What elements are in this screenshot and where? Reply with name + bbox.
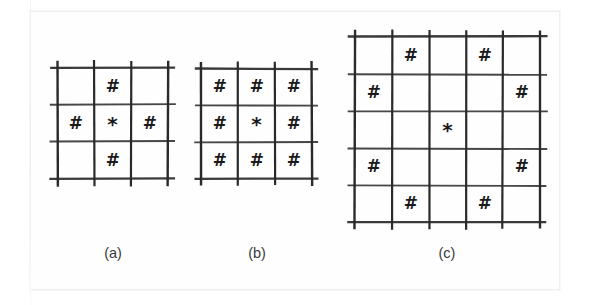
empty-cell [355, 185, 392, 222]
empty-cell [57, 68, 94, 105]
empty-cell [131, 142, 168, 179]
neighbor-pixel-marker: # [275, 105, 312, 142]
empty-cell [392, 148, 429, 185]
neighbor-pixel-marker: # [57, 105, 94, 142]
panel-caption-b: (b) [217, 245, 297, 261]
empty-cell [429, 74, 466, 111]
empty-cell [466, 148, 503, 185]
neighbor-pixel-marker: # [201, 68, 238, 105]
neighborhood-grid-a: ##*## [49, 60, 176, 187]
neighbor-pixel-marker: # [238, 142, 275, 179]
neighbor-pixel-marker: # [201, 142, 238, 179]
panel-caption-a: (a) [73, 245, 153, 261]
neighbor-pixel-marker: # [94, 68, 131, 105]
empty-cell [466, 74, 503, 111]
page-edge-line [30, 0, 31, 305]
empty-cell [429, 148, 466, 185]
center-pixel-marker: * [238, 105, 275, 142]
empty-cell [131, 68, 168, 105]
empty-cell [466, 111, 503, 148]
grid-cells: ####*#### [347, 29, 548, 230]
empty-cell [57, 142, 94, 179]
empty-cell [392, 111, 429, 148]
empty-cell [503, 37, 540, 74]
center-pixel-marker: * [94, 105, 131, 142]
neighborhood-grid-c: ####*#### [347, 29, 548, 230]
neighbor-pixel-marker: # [392, 37, 429, 74]
neighbor-pixel-marker: # [275, 142, 312, 179]
neighbor-pixel-marker: # [503, 148, 540, 185]
neighbor-pixel-marker: # [503, 74, 540, 111]
neighbor-pixel-marker: # [94, 142, 131, 179]
grid-cells: ####*#### [193, 60, 320, 187]
empty-cell [503, 185, 540, 222]
neighbor-pixel-marker: # [355, 148, 392, 185]
empty-cell [355, 111, 392, 148]
neighbor-pixel-marker: # [131, 105, 168, 142]
neighbor-pixel-marker: # [275, 68, 312, 105]
panel-caption-c: (c) [407, 245, 487, 261]
neighbor-pixel-marker: # [355, 74, 392, 111]
neighbor-pixel-marker: # [466, 37, 503, 74]
empty-cell [355, 37, 392, 74]
neighbor-pixel-marker: # [238, 68, 275, 105]
neighbor-pixel-marker: # [201, 105, 238, 142]
empty-cell [429, 37, 466, 74]
grid-cells: ##*## [49, 60, 176, 187]
figure-root: ##*##(a)####*####(b)####*####(c) [0, 0, 599, 305]
neighbor-pixel-marker: # [466, 185, 503, 222]
center-pixel-marker: * [429, 111, 466, 148]
empty-cell [392, 74, 429, 111]
empty-cell [503, 111, 540, 148]
neighborhood-grid-b: ####*#### [193, 60, 320, 187]
neighbor-pixel-marker: # [392, 185, 429, 222]
empty-cell [429, 185, 466, 222]
